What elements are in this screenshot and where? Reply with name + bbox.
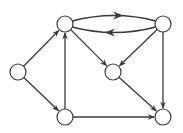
edges-group bbox=[24, 12, 163, 117]
node-D bbox=[105, 64, 121, 80]
nodes-group bbox=[10, 16, 171, 125]
edge-B-C bbox=[72, 16, 156, 22]
directed-graph-diagram bbox=[0, 0, 183, 133]
edge-D-F bbox=[119, 77, 156, 111]
edge-B-D bbox=[71, 30, 107, 66]
node-C bbox=[155, 16, 171, 32]
edge-C-B bbox=[72, 27, 156, 33]
node-A bbox=[10, 64, 26, 80]
edge-C-D bbox=[119, 30, 157, 66]
node-F bbox=[155, 109, 171, 125]
edge-A-B bbox=[24, 30, 59, 66]
node-E bbox=[57, 109, 73, 125]
edge-A-E bbox=[24, 78, 59, 111]
node-B bbox=[57, 16, 73, 32]
